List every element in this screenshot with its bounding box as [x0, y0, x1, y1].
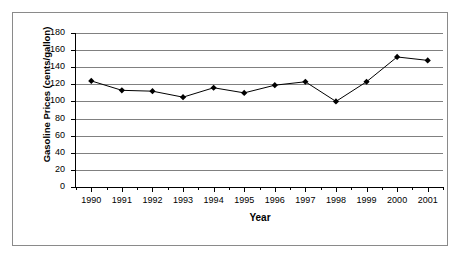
- data-point-1992: [149, 88, 155, 94]
- data-point-1994: [211, 85, 217, 91]
- data-point-1995: [241, 90, 247, 96]
- chart-figure-frame: Gasoline Prices (cents/gallon) 020406080…: [12, 12, 448, 246]
- data-point-1997: [302, 79, 308, 85]
- data-point-1991: [119, 87, 125, 93]
- data-point-2001: [425, 57, 431, 63]
- series-line-gasoline-prices: [91, 57, 427, 101]
- data-point-1998: [333, 98, 339, 104]
- x-axis-title: Year: [76, 212, 444, 223]
- data-point-1990: [88, 78, 94, 84]
- data-point-1996: [272, 82, 278, 88]
- data-point-1993: [180, 94, 186, 100]
